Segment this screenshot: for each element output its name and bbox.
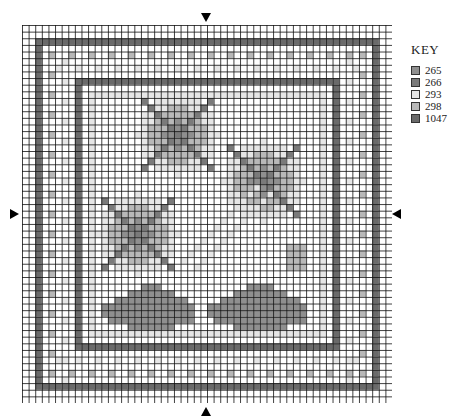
- center-marker-top-icon: [201, 13, 211, 22]
- center-marker-bottom-icon: [201, 407, 211, 416]
- key-code: 298: [425, 100, 442, 112]
- key-item: 1047: [411, 112, 447, 124]
- key-code: 265: [425, 64, 442, 76]
- cross-stitch-chart-grid: [22, 25, 392, 403]
- swatch-265: [411, 66, 420, 75]
- key-code: 293: [425, 88, 442, 100]
- swatch-298: [411, 102, 420, 111]
- key-item: 293: [411, 88, 447, 100]
- key-item: 265: [411, 64, 447, 76]
- key-item: 266: [411, 76, 447, 88]
- swatch-266: [411, 78, 420, 87]
- key-item: 298: [411, 100, 447, 112]
- swatch-1047: [411, 114, 420, 123]
- key-code: 1047: [425, 112, 447, 124]
- color-key: KEY 265 266 293 298 1047: [411, 42, 447, 124]
- swatch-293: [411, 90, 420, 99]
- key-code: 266: [425, 76, 442, 88]
- center-marker-left-icon: [10, 209, 19, 219]
- center-marker-right-icon: [392, 209, 401, 219]
- key-title: KEY: [411, 42, 447, 58]
